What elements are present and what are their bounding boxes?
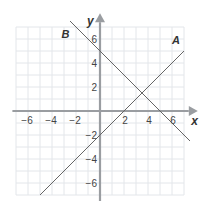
y-tick-label: −6 — [86, 178, 98, 189]
y-axis-arrow-icon — [95, 13, 105, 22]
x-tick-label: −6 — [21, 115, 33, 126]
x-tick-label: −2 — [69, 115, 81, 126]
series-label-b: B — [62, 28, 70, 40]
y-tick-label: 2 — [91, 82, 97, 93]
x-tick-label: 6 — [170, 115, 176, 126]
series-group — [40, 21, 190, 195]
x-axis-label: x — [190, 114, 199, 128]
x-tick-label: 2 — [122, 115, 128, 126]
y-tick-label: 6 — [91, 34, 97, 45]
y-tick-label: 4 — [91, 58, 97, 69]
y-axis-label: y — [86, 14, 95, 28]
y-tick-label: −2 — [86, 130, 98, 141]
labels-group: −6−4−2246−6−4−2246xyAB — [21, 14, 199, 189]
y-tick-label: −4 — [86, 154, 98, 165]
x-tick-label: 4 — [146, 115, 152, 126]
series-label-a: A — [171, 34, 180, 46]
x-tick-label: −4 — [45, 115, 57, 126]
coordinate-plane: −6−4−2246−6−4−2246xyAB — [0, 0, 214, 211]
